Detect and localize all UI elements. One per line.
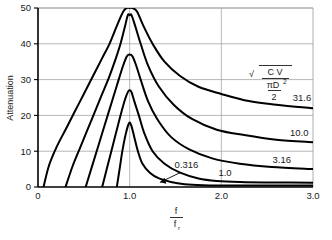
curve-label-31.6: 31.6 bbox=[293, 92, 312, 103]
chart-canvas: 01020304050 01.02.03.0 31.610.03.161.00.… bbox=[0, 0, 332, 240]
formula-numerator: C V bbox=[267, 67, 282, 77]
y-axis-label: Attenuation bbox=[5, 75, 15, 121]
y-tick-labels: 01020304050 bbox=[20, 2, 31, 192]
x-tick-label: 3.0 bbox=[306, 190, 319, 201]
y-tick-label: 10 bbox=[20, 146, 31, 157]
x-axis-label: f f r bbox=[170, 206, 183, 231]
formula-denominator-bottom: 2 bbox=[271, 92, 276, 102]
y-tick-label: 30 bbox=[20, 74, 31, 85]
formula-radical-sign: √ bbox=[249, 69, 254, 79]
formula-denominator-top: πD bbox=[267, 80, 280, 90]
curve-label-1.0: 1.0 bbox=[218, 167, 231, 178]
x-tick-label: 1.0 bbox=[123, 190, 136, 201]
y-tick-label: 40 bbox=[20, 38, 31, 49]
y-tick-label: 20 bbox=[20, 110, 31, 121]
parameter-formula: √ C V πD 2 2 bbox=[249, 66, 292, 103]
x-axis-label-denominator: f bbox=[174, 219, 177, 229]
x-axis-label-numerator: f bbox=[175, 206, 178, 216]
curve-label-3.16: 3.16 bbox=[273, 154, 292, 165]
x-tick-labels: 01.02.03.0 bbox=[35, 190, 319, 201]
curve-label-0.316: 0.316 bbox=[175, 159, 199, 170]
formula-denominator-exponent: 2 bbox=[283, 78, 287, 85]
y-tick-label: 50 bbox=[20, 2, 31, 13]
curve-label-10.0: 10.0 bbox=[290, 127, 309, 138]
y-tick-label: 0 bbox=[26, 181, 31, 192]
x-axis-label-subscript: r bbox=[178, 225, 180, 231]
x-tick-label: 0 bbox=[35, 190, 40, 201]
attenuation-chart: 01020304050 01.02.03.0 31.610.03.161.00.… bbox=[0, 0, 332, 240]
x-tick-label: 2.0 bbox=[215, 190, 228, 201]
